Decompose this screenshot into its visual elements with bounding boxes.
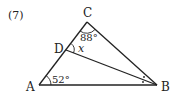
problem-number: (7) bbox=[8, 9, 24, 22]
angle-arc-a bbox=[46, 76, 51, 86]
angle-mark-dot-upper bbox=[143, 76, 145, 78]
triangle-diagram: (7) C D A B 88° x 52° bbox=[0, 0, 181, 109]
angle-mark-dot-lower bbox=[142, 81, 144, 83]
vertex-label-b: B bbox=[161, 80, 170, 94]
angle-label-a: 52° bbox=[52, 74, 70, 85]
vertex-label-d: D bbox=[54, 42, 64, 56]
angle-label-x: x bbox=[78, 42, 85, 55]
vertex-label-a: A bbox=[25, 80, 35, 94]
segment-db bbox=[66, 50, 157, 85]
vertex-label-c: C bbox=[83, 6, 92, 20]
